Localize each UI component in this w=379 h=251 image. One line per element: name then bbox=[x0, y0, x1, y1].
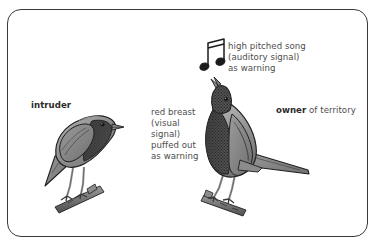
label-owner-of-territory: owner of territory bbox=[276, 105, 356, 116]
label-owner-rest: of territory bbox=[306, 105, 356, 115]
label-red-breast: red breast (visual signal) puffed out as… bbox=[151, 107, 198, 162]
figure-root: intruder high pitched song (auditory sig… bbox=[0, 0, 379, 251]
beamed-eighth-notes-icon bbox=[199, 37, 231, 75]
label-owner-bold: owner bbox=[276, 105, 306, 115]
label-intruder: intruder bbox=[31, 100, 71, 111]
label-high-pitched-song: high pitched song (auditory signal) as w… bbox=[228, 41, 306, 74]
